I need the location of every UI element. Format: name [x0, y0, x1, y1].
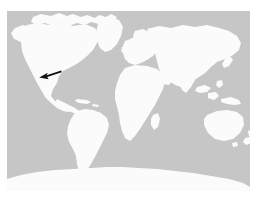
world-map — [7, 11, 250, 191]
figure-root — [0, 0, 260, 197]
world-map-canvas — [7, 11, 250, 191]
